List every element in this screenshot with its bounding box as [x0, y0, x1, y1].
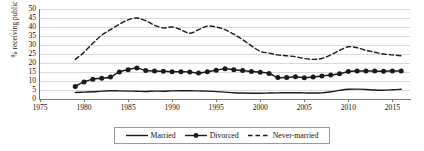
- x-tick-1995: 1995: [196, 103, 236, 112]
- data-point: [231, 67, 236, 72]
- data-point: [161, 69, 166, 74]
- legend-item-never-married[interactable]: Never-married: [248, 131, 319, 140]
- y-tick-35: 35: [14, 32, 36, 40]
- data-point: [399, 68, 404, 73]
- line-chart: % receiving public aid 05101520253035404…: [0, 0, 424, 151]
- data-point: [223, 66, 228, 71]
- x-tick-1980: 1980: [64, 103, 104, 112]
- data-point: [205, 69, 210, 74]
- x-tick-2015: 2015: [372, 103, 412, 112]
- x-tick-mark-2000: [260, 99, 261, 102]
- chart-legend: Married Divorced Never-married: [114, 127, 330, 144]
- x-tick-mark-2005: [304, 99, 305, 102]
- data-point: [240, 68, 245, 73]
- y-tick-20: 20: [14, 59, 36, 67]
- legend-item-divorced[interactable]: Divorced: [185, 131, 239, 140]
- data-point: [178, 69, 183, 74]
- data-point: [293, 74, 298, 79]
- y-tick-25: 25: [14, 50, 36, 58]
- series-divorced: [73, 66, 404, 89]
- x-tick-2010: 2010: [328, 103, 368, 112]
- data-point: [319, 73, 324, 78]
- data-point: [99, 76, 104, 81]
- y-tick-45: 45: [14, 14, 36, 22]
- x-tick-mark-2015: [392, 99, 393, 102]
- legend-label-never-married: Never-married: [273, 131, 319, 140]
- data-point: [275, 75, 280, 80]
- data-point: [311, 75, 316, 80]
- series-line-1: [75, 68, 401, 86]
- data-point: [134, 66, 139, 71]
- y-tick-15: 15: [14, 68, 36, 76]
- data-point: [337, 71, 342, 76]
- data-point: [267, 71, 272, 76]
- x-tick-mark-1985: [128, 99, 129, 102]
- solid-line-swatch-icon: [126, 132, 148, 139]
- data-point: [117, 70, 122, 75]
- x-axis-line: [39, 99, 411, 100]
- data-point: [143, 68, 148, 73]
- data-point: [381, 69, 386, 74]
- data-point: [249, 69, 254, 74]
- y-tick-50: 50: [14, 5, 36, 13]
- legend-item-married[interactable]: Married: [126, 131, 176, 140]
- series-married: [75, 89, 401, 93]
- x-tick-1975: 1975: [20, 103, 60, 112]
- line-with-circle-marker-swatch-icon: [185, 132, 207, 139]
- data-point: [372, 69, 377, 74]
- legend-label-divorced: Divorced: [210, 131, 239, 140]
- data-point: [90, 77, 95, 82]
- x-tick-2000: 2000: [240, 103, 280, 112]
- x-tick-mark-2010: [348, 99, 349, 102]
- data-point: [258, 70, 263, 75]
- data-point: [328, 73, 333, 78]
- x-tick-2005: 2005: [284, 103, 324, 112]
- y-tick-10: 10: [14, 77, 36, 85]
- data-point: [363, 69, 368, 74]
- y-tick-30: 30: [14, 41, 36, 49]
- series-line-2: [75, 18, 401, 59]
- data-point: [355, 68, 360, 73]
- data-point: [108, 75, 113, 80]
- x-tick-mark-1980: [84, 99, 85, 102]
- data-point: [196, 71, 201, 76]
- x-tick-mark-1990: [172, 99, 173, 102]
- x-tick-mark-1975: [40, 99, 41, 102]
- legend-label-married: Married: [151, 131, 176, 140]
- y-axis-line: [39, 9, 40, 100]
- x-tick-1985: 1985: [108, 103, 148, 112]
- data-point: [346, 69, 351, 74]
- x-tick-mark-1995: [216, 99, 217, 102]
- data-point: [73, 84, 78, 89]
- data-point: [390, 68, 395, 73]
- data-point: [284, 75, 289, 80]
- data-point: [170, 69, 175, 74]
- y-axis-tick-labels: 05101520253035404550: [12, 0, 36, 151]
- data-point: [214, 68, 219, 73]
- series-line-0: [75, 89, 401, 93]
- y-tick-0: 0: [14, 95, 36, 103]
- data-point: [187, 70, 192, 75]
- data-point: [302, 75, 307, 80]
- series-layer: [40, 9, 410, 99]
- data-point: [82, 79, 87, 84]
- dashed-line-swatch-icon: [248, 132, 270, 139]
- data-point: [126, 67, 131, 72]
- y-tick-40: 40: [14, 23, 36, 31]
- data-point: [152, 69, 157, 74]
- x-tick-1990: 1990: [152, 103, 192, 112]
- y-tick-5: 5: [14, 86, 36, 94]
- plot-area: [40, 9, 410, 99]
- series-never-married: [75, 18, 401, 59]
